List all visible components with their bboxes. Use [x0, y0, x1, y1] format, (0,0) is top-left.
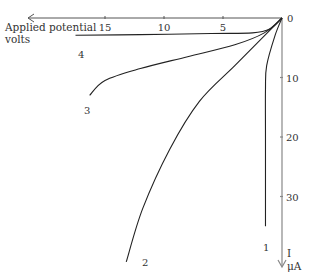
- x-tick-label: 10: [158, 22, 171, 33]
- current-voltage-diagram: 15105 Applied potential volts 102030 I μ…: [0, 0, 316, 277]
- y-ticks: 102030: [280, 73, 299, 203]
- curve-1: [265, 18, 282, 226]
- curve-2: [126, 18, 282, 262]
- y-axis-label-line1: I: [287, 247, 291, 259]
- y-tick-label: 10: [286, 73, 299, 84]
- x-ticks: 15105: [99, 16, 227, 33]
- curve-label-3: 3: [84, 105, 90, 116]
- x-axis-label-line2: volts: [4, 33, 30, 45]
- x-axis-label-line1: Applied potential: [4, 21, 97, 33]
- curve-label-1: 1: [263, 242, 269, 253]
- curve-label-2: 2: [142, 257, 148, 268]
- curve-label-4: 4: [78, 49, 84, 60]
- x-tick-label: 5: [220, 22, 226, 33]
- y-tick-label: 30: [286, 192, 299, 203]
- curve-3: [90, 18, 282, 95]
- x-tick-label: 15: [99, 22, 112, 33]
- y-axis-label-line2: μA: [287, 260, 302, 272]
- origin-label: 0: [287, 13, 293, 24]
- curves: [76, 18, 283, 262]
- y-tick-label: 20: [286, 132, 299, 143]
